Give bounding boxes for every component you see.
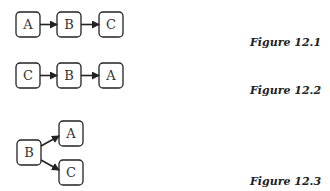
node-label: C (23, 68, 33, 83)
figure-caption: Figure 12.3 (250, 175, 321, 188)
figure-12-3: B A C (17, 121, 83, 185)
arrow (41, 136, 59, 146)
node-label: B (64, 68, 74, 83)
node-label: B (24, 145, 34, 160)
node-label: A (22, 17, 33, 32)
figure-caption: Figure 12.2 (250, 84, 321, 97)
figure-12-1: A B C (16, 12, 123, 37)
node-label: C (66, 165, 76, 180)
node-label: A (65, 126, 76, 141)
node-label: C (106, 17, 116, 32)
node-label: A (105, 68, 116, 83)
node-label: B (64, 17, 74, 32)
arrow (41, 160, 59, 170)
figure-12-2: C B A (16, 63, 123, 88)
figure-caption: Figure 12.1 (250, 36, 321, 49)
